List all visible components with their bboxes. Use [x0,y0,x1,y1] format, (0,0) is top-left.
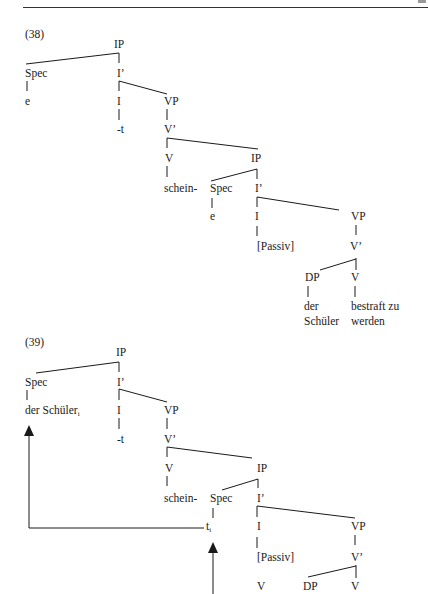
node-vbar2: V’ [350,240,362,252]
node-t: -t [117,123,125,135]
node-ip: IP [116,346,126,358]
node-ip2: IP [251,152,261,164]
node-i: I [117,95,121,107]
node-spec2: Spec [210,182,232,195]
node-werden: werden [351,315,385,327]
node-passiv: [Passiv] [257,551,294,563]
node-der-schueler: der Schüleri [25,404,80,418]
tree-38: (38) IP Spec I’ e I VP -t V’ V IP schein… [25,28,399,327]
node-spec: Spec [25,376,47,389]
node-dp: DP [305,271,320,283]
node-e2: e [210,210,215,222]
node-vbar2: V’ [351,551,363,563]
example-number: (39) [25,336,44,349]
node-ip2: IP [257,462,267,474]
node-v2: V [351,580,360,592]
syntax-trees: (38) IP Spec I’ e I VP -t V’ V IP schein… [0,0,428,594]
node-dp: DP [303,580,318,592]
node-v2: V [351,271,360,283]
node-vp: VP [164,95,179,107]
arrow-up-icon [24,425,34,436]
node-v3: V [257,580,266,592]
node-bestraft: bestraft zu [351,300,399,312]
node-ibar2: I’ [257,492,265,504]
node-vp2: VP [351,520,366,532]
node-i: I [117,404,121,416]
node-v: V [165,152,174,164]
node-ibar: I’ [117,376,125,388]
node-i2: I [255,210,259,222]
node-vp2: VP [351,210,366,222]
node-i2: I [257,520,261,532]
node-trace: ti [206,520,211,534]
node-v: V [165,462,174,474]
node-vbar: V’ [164,123,176,135]
node-der: der [304,300,319,312]
arrow-up-icon [208,542,218,553]
node-schein: schein- [164,182,197,194]
node-schein: schein- [164,492,197,504]
node-ibar2: I’ [255,182,263,194]
node-spec: Spec [25,67,47,80]
node-ip: IP [114,38,124,50]
node-ibar: I’ [117,67,125,79]
node-schueler: Schüler [304,315,339,327]
node-t: -t [117,433,125,445]
node-vbar: V’ [164,433,176,445]
example-number: (38) [25,28,44,41]
node-passiv: [Passiv] [257,240,294,252]
tree-39: (39) IP Spec I’ der Schüleri I VP -t V’ … [24,336,366,594]
node-e: e [25,95,30,107]
node-vp: VP [164,404,179,416]
node-spec2: Spec [210,492,232,505]
